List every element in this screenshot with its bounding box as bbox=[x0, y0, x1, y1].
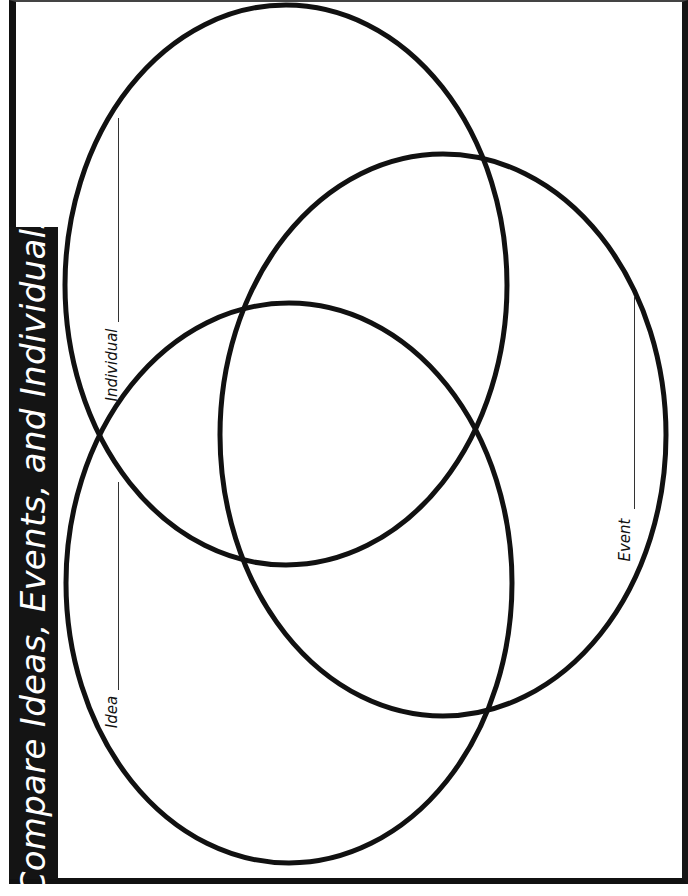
event-circle[interactable] bbox=[220, 154, 666, 716]
idea-circle[interactable] bbox=[66, 303, 512, 863]
individual-circle[interactable] bbox=[65, 5, 507, 565]
event-write-line[interactable] bbox=[634, 297, 635, 509]
individual-write-line[interactable] bbox=[118, 118, 119, 322]
event-label: Event bbox=[616, 519, 634, 562]
idea-write-line[interactable] bbox=[118, 482, 119, 690]
idea-label: Idea bbox=[103, 696, 121, 728]
individual-label: Individual bbox=[103, 328, 121, 401]
